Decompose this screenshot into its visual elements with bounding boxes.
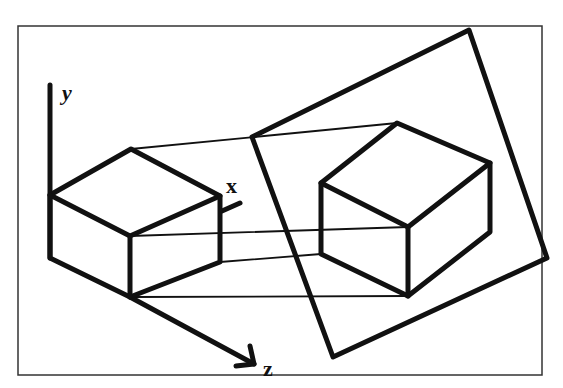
projector-top xyxy=(131,123,397,149)
x-axis xyxy=(222,203,240,211)
projection-plane xyxy=(252,30,547,357)
projection-diagram: y x z xyxy=(0,0,563,388)
diagram-frame xyxy=(18,26,542,375)
projector-front-top xyxy=(130,227,408,236)
projector-front-bottom xyxy=(130,296,408,297)
projected-cube xyxy=(321,123,490,296)
x-axis-label: x xyxy=(226,173,237,198)
projector-right-bottom xyxy=(220,254,321,262)
z-axis-label: z xyxy=(263,356,273,381)
object-cube xyxy=(50,149,220,297)
z-axis xyxy=(130,297,254,364)
object-cube-top-face xyxy=(50,149,220,236)
projected-cube-top-face xyxy=(321,123,490,227)
y-axis-label: y xyxy=(59,80,72,105)
